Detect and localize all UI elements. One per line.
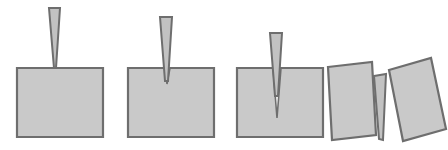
panel-4-left-half-block bbox=[328, 62, 376, 140]
panel-4-right-half-block bbox=[389, 58, 446, 141]
panel-4-full-split bbox=[328, 58, 446, 141]
panel-2-initial-penetration bbox=[128, 17, 214, 137]
panel-2-block bbox=[128, 68, 214, 137]
panel-1-wedge bbox=[49, 8, 60, 68]
panel-1-block bbox=[17, 68, 103, 137]
wedge-splitting-figure: Wedge splitting of a block: four-stage s… bbox=[0, 0, 448, 150]
panel-3-crack-propagation bbox=[237, 33, 323, 137]
panel-1-contact bbox=[17, 8, 103, 137]
figure-canvas bbox=[0, 0, 448, 150]
